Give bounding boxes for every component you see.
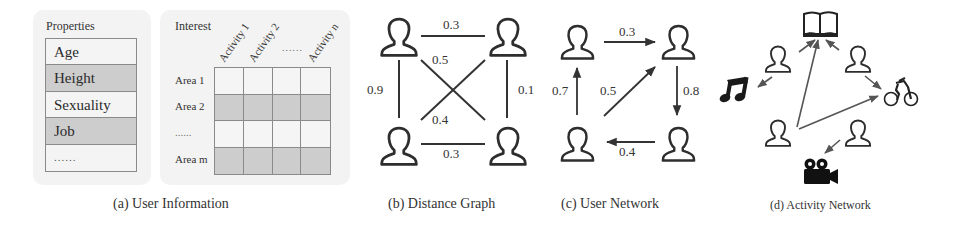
user-icon xyxy=(846,120,870,145)
movie-camera-icon xyxy=(804,159,838,185)
edge-arrow xyxy=(799,40,815,52)
user-icon xyxy=(562,26,593,59)
user-icon xyxy=(491,19,526,55)
caption-user-network: (c) User Network xyxy=(561,196,659,212)
book-icon xyxy=(803,13,838,38)
weight-c-top: 0.3 xyxy=(619,24,635,40)
edge-arrow xyxy=(865,76,881,89)
weight-b-top: 0.3 xyxy=(443,17,459,33)
user-icon xyxy=(846,46,870,71)
activity-network xyxy=(718,13,917,185)
weight-b-bottom: 0.3 xyxy=(443,146,459,162)
user-icon xyxy=(382,19,417,55)
edge-arrow xyxy=(758,77,772,87)
music-icon xyxy=(718,77,748,104)
caption-distance-graph: (b) Distance Graph xyxy=(388,196,495,212)
caption-activity-network: (d) Activity Network xyxy=(770,198,871,213)
edge-arrow xyxy=(797,40,818,127)
weight-c-left: 0.7 xyxy=(552,83,568,99)
graph-canvas xyxy=(0,0,963,227)
bicycle-icon xyxy=(885,78,918,106)
user-icon xyxy=(491,128,526,164)
weight-b-diag-down: 0.5 xyxy=(432,52,448,68)
weight-b-right: 0.1 xyxy=(518,82,534,98)
weight-c-bottom: 0.4 xyxy=(619,144,635,160)
user-icon xyxy=(766,46,790,71)
edge-arrow xyxy=(826,40,839,50)
user-network xyxy=(562,26,694,161)
user-icon xyxy=(663,128,694,161)
edge-arrow xyxy=(825,140,840,153)
weight-c-right: 0.8 xyxy=(683,83,699,99)
user-icon xyxy=(382,128,417,164)
distance-graph xyxy=(382,19,526,164)
user-icon xyxy=(766,120,790,145)
user-icon xyxy=(663,26,694,59)
user-icon xyxy=(562,128,593,161)
weight-b-left: 0.9 xyxy=(367,82,383,98)
weight-c-diag: 0.5 xyxy=(600,83,616,99)
weight-b-diag-up: 0.4 xyxy=(432,112,448,128)
edge-arrow xyxy=(799,96,878,129)
